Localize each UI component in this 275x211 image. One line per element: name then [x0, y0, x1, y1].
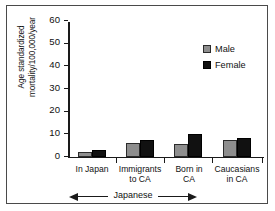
x-category-in-japan-line1: In Japan — [76, 164, 109, 174]
legend-item-male: Male — [203, 42, 246, 55]
y-tick-label-20: 20 — [38, 104, 60, 115]
y-tick-50: 50 — [64, 43, 68, 44]
y-tick-10: 10 — [64, 133, 68, 134]
y-tick-label-40: 40 — [38, 59, 60, 70]
y-tick-label-50: 50 — [38, 36, 60, 47]
x-category-caucasians-line2: in CA — [226, 174, 247, 184]
y-tick-20: 20 — [64, 111, 68, 112]
bar-female-caucasians-in-ca — [237, 138, 251, 157]
span-line-right — [158, 196, 188, 197]
legend-swatch-male-icon — [203, 45, 211, 53]
figure-frame: Age standardized mortality/100,000/year … — [6, 5, 268, 204]
x-axis-line — [68, 157, 264, 159]
y-tick-40: 40 — [64, 65, 68, 66]
y-axis-title-line1: Age standardized — [16, 26, 26, 89]
y-tick-label-30: 30 — [38, 82, 60, 93]
chart-legend: Male Female — [203, 42, 246, 74]
japanese-span-label: Japanese — [69, 190, 197, 200]
japanese-span-annotation: Japanese — [69, 190, 197, 204]
y-tick-label-60: 60 — [38, 14, 60, 25]
chart-figure: Age standardized mortality/100,000/year … — [0, 0, 275, 211]
bar-female-born-in-ca — [188, 134, 202, 156]
y-axis-line — [68, 22, 70, 158]
bar-male-immigrants-to-ca — [126, 143, 140, 156]
x-tick-2 — [164, 158, 165, 163]
bar-female-immigrants-to-ca — [140, 140, 154, 157]
y-tick-30: 30 — [64, 88, 68, 89]
bar-female-in-japan — [92, 150, 106, 157]
bar-male-caucasians-in-ca — [223, 140, 237, 157]
legend-label-male: Male — [215, 44, 235, 54]
x-category-label-in-japan: In Japan — [66, 164, 118, 174]
y-tick-60: 60 — [64, 20, 68, 21]
y-axis-title-line2: mortality/100,000/year — [27, 17, 37, 97]
x-category-born-line1: Born in — [175, 164, 202, 174]
x-category-caucasians-line1: Caucasians — [215, 164, 260, 174]
x-category-born-line2: CA — [183, 174, 195, 184]
x-category-label-born-in-ca: Born in CA — [163, 164, 215, 184]
y-tick-0: 0 — [64, 156, 68, 157]
legend-swatch-female-icon — [203, 61, 211, 69]
x-tick-3 — [212, 158, 213, 163]
arrow-right-icon — [188, 193, 197, 201]
x-tick-4 — [262, 158, 263, 163]
x-category-immigrants-line1: Immigrants — [119, 164, 162, 174]
x-category-label-immigrants-to-ca: Immigrants to CA — [114, 164, 166, 184]
y-tick-label-10: 10 — [38, 127, 60, 138]
x-tick-1 — [116, 158, 117, 163]
legend-label-female: Female — [215, 60, 246, 70]
x-category-label-caucasians-in-ca: Caucasians in CA — [211, 164, 263, 184]
legend-item-female: Female — [203, 58, 246, 71]
y-tick-label-0: 0 — [38, 150, 60, 161]
bar-male-born-in-ca — [174, 144, 188, 156]
x-category-immigrants-line2: to CA — [129, 174, 151, 184]
bar-male-in-japan — [78, 152, 92, 156]
